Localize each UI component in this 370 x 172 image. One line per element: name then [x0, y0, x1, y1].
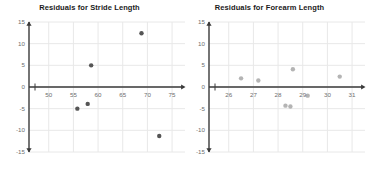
chart-panel-forearm-length: Residuals for Forearm Length 151050-5-10…: [180, 0, 359, 172]
y-tick-label: 15: [5, 18, 25, 25]
plot-canvas-stride-length: [29, 22, 191, 158]
data-point: [139, 31, 143, 35]
data-point: [157, 134, 161, 138]
y-tick-label: 0: [185, 83, 205, 90]
chart-title-forearm-length: Residuals for Forearm Length: [180, 3, 359, 12]
x-tick-label: 70: [137, 91, 157, 98]
y-tick-label: -10: [185, 126, 205, 133]
x-tick-label: 29: [293, 91, 313, 98]
x-tick-label: 55: [63, 91, 83, 98]
y-tick-label: 5: [185, 61, 205, 68]
x-tick-label: 60: [88, 91, 108, 98]
y-tick-label: 10: [5, 40, 25, 47]
x-tick-label: 27: [243, 91, 263, 98]
y-tick-label: 10: [185, 40, 205, 47]
data-point: [86, 102, 90, 106]
scatter-plot-stride-length: 151050-5-10-15505560657075: [29, 22, 177, 152]
y-tick-label: 5: [5, 61, 25, 68]
chart-title-stride-length: Residuals for Stride Length: [0, 3, 179, 12]
data-point: [239, 76, 243, 80]
x-tick-label: 31: [342, 91, 362, 98]
data-point: [288, 104, 292, 108]
x-tick-label: 28: [268, 91, 288, 98]
x-tick-label: 30: [317, 91, 337, 98]
y-tick-label: 15: [185, 18, 205, 25]
x-tick-label: 50: [39, 91, 59, 98]
plot-canvas-forearm-length: [209, 22, 370, 158]
y-tick-label: -10: [5, 126, 25, 133]
data-point: [75, 106, 79, 110]
data-point: [338, 74, 342, 78]
x-tick-label: 26: [219, 91, 239, 98]
y-tick-label: -15: [185, 148, 205, 155]
y-tick-label: -5: [5, 105, 25, 112]
x-tick-label: 65: [113, 91, 133, 98]
y-tick-label: -5: [185, 105, 205, 112]
x-axis-arrowhead: [361, 84, 365, 89]
y-tick-label: 0: [5, 83, 25, 90]
scatter-plot-forearm-length: 151050-5-10-15262728293031: [209, 22, 357, 152]
data-point: [256, 78, 260, 82]
data-point: [283, 103, 287, 107]
data-point: [291, 67, 295, 71]
chart-panel-stride-length: Residuals for Stride Length 151050-5-10-…: [0, 0, 179, 172]
y-tick-label: -15: [5, 148, 25, 155]
data-point: [89, 63, 93, 67]
